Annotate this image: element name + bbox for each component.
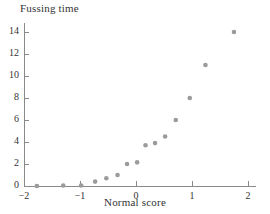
data-point xyxy=(143,143,148,148)
y-axis-tick-label: 10 xyxy=(1,69,19,80)
y-axis-tick-label: 2 xyxy=(1,157,19,168)
data-point xyxy=(135,160,140,165)
data-point xyxy=(153,141,158,146)
data-point xyxy=(61,183,66,188)
data-point xyxy=(104,176,109,181)
data-point xyxy=(163,134,168,139)
data-points-group xyxy=(35,30,237,189)
y-axis-tick-label: 4 xyxy=(1,135,19,146)
y-axis-tick-label: 0 xyxy=(1,179,19,190)
data-point xyxy=(115,173,120,178)
y-axis-tick-label: 6 xyxy=(1,113,19,124)
axes-group xyxy=(24,23,256,186)
x-axis-label: Normal score xyxy=(0,196,270,208)
y-axis-tick-label: 14 xyxy=(1,25,19,36)
data-point xyxy=(35,184,40,189)
data-point xyxy=(203,63,208,68)
data-point xyxy=(232,30,237,35)
plot-canvas xyxy=(0,0,270,214)
scatter-plot: Fussing time 02468101214 −2−1012 Normal … xyxy=(0,0,270,214)
y-axis-tick-label: 12 xyxy=(1,47,19,58)
data-point xyxy=(125,162,130,167)
data-point xyxy=(93,179,98,184)
data-point xyxy=(79,183,84,188)
data-point xyxy=(187,96,192,101)
data-point xyxy=(173,118,178,123)
y-axis-tick-label: 8 xyxy=(1,91,19,102)
